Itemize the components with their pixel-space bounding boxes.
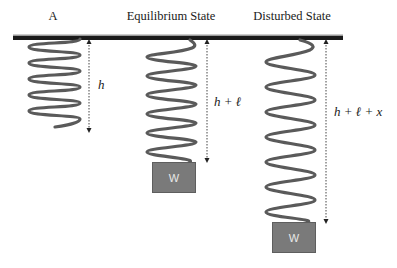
spring-a xyxy=(29,39,80,127)
title-disturbed-state: Disturbed State xyxy=(253,9,330,24)
spring-disturbed xyxy=(266,40,315,222)
weight-disturbed-label: W xyxy=(289,232,299,244)
label-h-plus-l-plus-x: h + ℓ + x xyxy=(334,104,382,120)
weight-equilibrium-label: W xyxy=(169,172,179,184)
title-a: A xyxy=(48,9,57,24)
label-h-plus-l: h + ℓ xyxy=(214,94,241,110)
title-equilibrium-state: Equilibrium State xyxy=(127,9,216,24)
label-h: h xyxy=(98,77,105,93)
weight-equilibrium: W xyxy=(152,162,196,193)
ceiling-bar xyxy=(13,36,343,40)
spring-diagram xyxy=(0,0,397,268)
weight-disturbed: W xyxy=(272,222,316,253)
spring-equilibrium xyxy=(147,40,196,162)
